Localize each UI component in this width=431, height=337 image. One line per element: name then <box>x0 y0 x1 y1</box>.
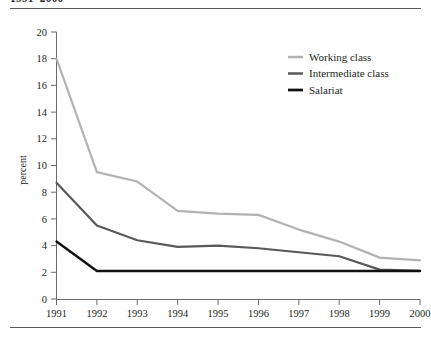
x-tick-label: 1996 <box>248 308 269 319</box>
y-tick-label: 8 <box>42 187 47 198</box>
y-tick-label: 2 <box>42 267 47 278</box>
line-chart: 02468101214161820 1991199219931994199519… <box>0 0 431 337</box>
x-tick-label: 1993 <box>127 308 148 319</box>
y-tick-label: 0 <box>42 294 47 305</box>
y-tick-label: 6 <box>42 214 47 225</box>
y-tick-label: 18 <box>37 53 48 64</box>
y-tick-label: 12 <box>37 133 48 144</box>
chart-legend: Working classIntermediate classSalariat <box>288 51 389 96</box>
legend-label: Intermediate class <box>309 67 389 79</box>
x-tick-label: 1997 <box>288 308 309 319</box>
y-tick-label: 14 <box>37 107 48 118</box>
x-axis-ticks: 1991199219931994199519961997199819992000 <box>46 300 431 320</box>
y-tick-label: 20 <box>37 27 48 38</box>
y-tick-label: 16 <box>37 80 48 91</box>
y-axis-title: percent <box>17 155 28 185</box>
x-tick-label: 1998 <box>329 308 350 319</box>
x-tick-label: 2000 <box>410 308 431 319</box>
y-tick-label: 10 <box>37 160 48 171</box>
legend-label: Working class <box>309 51 371 63</box>
x-tick-label: 1994 <box>167 308 189 319</box>
x-tick-label: 1995 <box>208 308 229 319</box>
series-line-intermediate-class <box>57 183 421 271</box>
x-tick-label: 1991 <box>46 308 67 319</box>
chart-series-group <box>57 59 421 271</box>
legend-label: Salariat <box>309 84 343 96</box>
y-tick-label: 4 <box>42 240 48 251</box>
figure-container: 1991–2000 02468101214161820 199119921993… <box>0 0 431 337</box>
x-tick-label: 1999 <box>369 308 390 319</box>
x-tick-label: 1992 <box>86 308 107 319</box>
y-axis-ticks: 02468101214161820 <box>37 27 57 305</box>
